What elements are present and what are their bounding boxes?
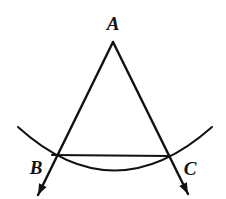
vertex-label-c: C	[184, 158, 197, 179]
segment-bc	[52, 155, 170, 156]
vertex-label-b: B	[29, 157, 43, 178]
figure-canvas: A B C	[0, 0, 226, 199]
geometry-figure: A B C	[0, 0, 226, 199]
vertex-label-a: A	[106, 13, 120, 34]
